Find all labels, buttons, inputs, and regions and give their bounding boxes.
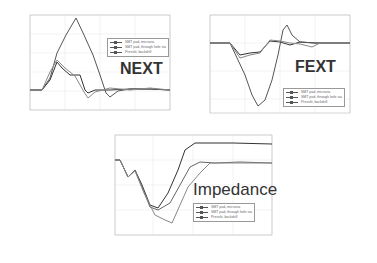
- next-label: NEXT: [120, 60, 163, 78]
- legend-marker-icon: [286, 97, 298, 98]
- legend-label: Presslit, backdrill: [211, 215, 237, 220]
- legend-marker-icon: [110, 52, 122, 53]
- legend-marker-icon: [196, 207, 208, 208]
- impedance-label: Impedance: [193, 180, 277, 200]
- fext-chart: SMT pad, microvia SMT pad, through hole …: [190, 0, 377, 125]
- legend-marker-icon: [286, 92, 298, 93]
- legend-marker-icon: [196, 217, 208, 218]
- legend-label: Presslit, backdrill: [125, 50, 151, 55]
- legend-marker-icon: [110, 47, 122, 48]
- next-chart: SMT pad, microvia SMT pad, through hole …: [0, 0, 190, 125]
- impedance-legend: SMT pad, microvia SMT pad, through hole …: [193, 203, 255, 222]
- legend-marker-icon: [110, 42, 122, 43]
- impedance-chart: SMT pad, microvia SMT pad, through hole …: [100, 125, 280, 263]
- legend-marker-icon: [196, 212, 208, 213]
- fext-label: FEXT: [295, 58, 336, 76]
- next-legend: SMT pad, microvia SMT pad, through hole …: [107, 38, 169, 57]
- legend-marker-icon: [286, 102, 298, 103]
- fext-legend: SMT pad, microvia SMT pad, through hole …: [283, 88, 345, 107]
- legend-label: Presslit, backdrill: [301, 100, 327, 105]
